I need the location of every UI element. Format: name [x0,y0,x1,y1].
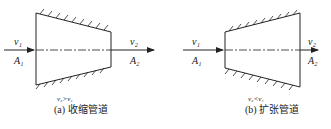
label-a-inlet-area: A₁ [14,56,24,66]
nozzle-diffuser-diagram: v₁ A₁ v₂ A₂ v₂>v₁ (a) 收缩管道 v₁ A₁ v₂ A₂ v… [0,0,331,129]
label-b-outlet-velocity: v₂ [308,37,316,47]
label-b-inlet-velocity: v₁ [192,37,200,47]
label-b-inlet-area: A₁ [192,56,202,66]
condition-b: v₂<v₁ [248,95,264,103]
label-a-outlet-velocity: v₂ [130,37,138,47]
label-a-outlet-area: A₂ [130,56,140,66]
converging-duct [4,9,154,89]
condition-a: v₂>v₁ [57,95,73,103]
label-b-outlet-area: A₂ [308,56,318,66]
diverging-duct [183,10,318,90]
caption-b: (b) 扩张管道 [245,104,299,116]
caption-a: (a) 收缩管道 [54,104,108,116]
label-a-inlet-velocity: v₁ [14,37,22,47]
